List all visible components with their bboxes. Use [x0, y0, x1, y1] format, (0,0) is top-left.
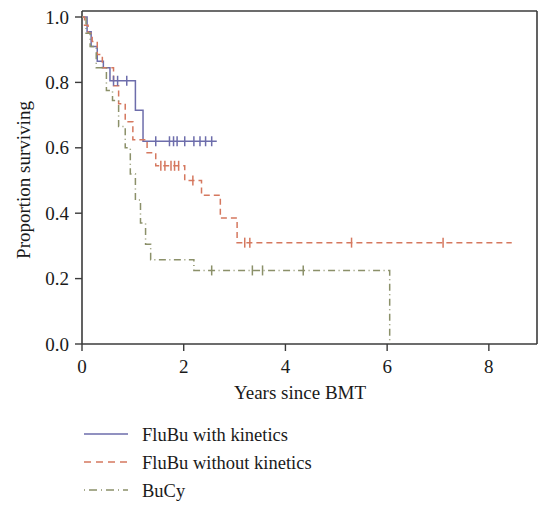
y-tick-label: 0.0 [45, 334, 69, 355]
y-tick-labels: 0.00.20.40.60.81.0 [45, 7, 69, 355]
x-tick-label: 2 [179, 356, 189, 377]
survival-curve-0 [82, 17, 217, 141]
y-tick-label: 0.8 [45, 72, 69, 93]
y-tick-label: 0.4 [45, 203, 69, 224]
y-tick-label: 1.0 [45, 7, 69, 28]
x-axis-title: Years since BMT [234, 382, 367, 403]
y-tick-label: 0.2 [45, 268, 69, 289]
x-tick-label: 4 [281, 356, 291, 377]
plot-axes [82, 11, 537, 344]
chart-legend: FluBu with kineticsFluBu without kinetic… [84, 425, 312, 501]
legend-label-2: BuCy [142, 481, 186, 501]
legend-label-1: FluBu without kinetics [142, 453, 312, 473]
y-tick-marks [75, 17, 82, 344]
y-tick-label: 0.6 [45, 137, 69, 158]
survival-curve-1 [82, 17, 512, 243]
kaplan-meier-plot: 0.00.20.40.60.81.0 02468 Proportion surv… [0, 0, 541, 506]
x-tick-marks [82, 344, 489, 351]
censoring-marks [114, 76, 444, 276]
x-tick-label: 6 [382, 356, 392, 377]
survival-chart-figure: 0.00.20.40.60.81.0 02468 Proportion surv… [0, 0, 541, 506]
x-tick-label: 0 [77, 356, 87, 377]
x-tick-label: 8 [484, 356, 494, 377]
survival-curves [82, 17, 512, 344]
legend-label-0: FluBu with kinetics [142, 425, 288, 445]
x-tick-labels: 02468 [77, 356, 493, 377]
survival-curve-2 [82, 17, 390, 344]
y-axis-title: Proportion surviving [13, 101, 34, 259]
